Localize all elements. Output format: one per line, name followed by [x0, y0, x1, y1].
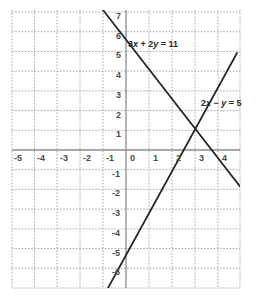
y-tick-label-7: 7: [116, 12, 121, 21]
eq2-equals-value: = 5: [226, 98, 241, 108]
coordinate-plane-graph: -5 -4 -3 -2 -1 0 1 2 3 4 7 6 5 4 3 2 1 -…: [0, 0, 257, 298]
x-tick-label-3: 3: [199, 154, 204, 163]
y-tick-label-1: 1: [116, 130, 121, 139]
y-tick-label--4: -4: [112, 229, 120, 238]
x-tick-label--1: -1: [106, 154, 114, 163]
y-tick-label--1: -1: [112, 170, 120, 179]
x-tick-label--4: -4: [37, 154, 45, 163]
x-tick-label--3: -3: [60, 154, 68, 163]
y-tick-label-6: 6: [116, 32, 121, 41]
equation-label-line-1: 3x + 2y = 11: [128, 40, 178, 49]
y-tick-label--6: -6: [112, 268, 120, 277]
x-tick-label-1: 1: [153, 154, 158, 163]
x-tick-label--2: -2: [83, 154, 91, 163]
eq1-operator: +: [138, 39, 148, 49]
y-tick-label-2: 2: [116, 111, 121, 120]
eq2-operator: −: [211, 98, 221, 108]
equation-label-line-2: 2x − y = 5: [201, 99, 242, 108]
x-tick-label-4: 4: [222, 154, 227, 163]
eq1-equals-value: = 11: [158, 39, 178, 49]
x-tick-label-0: 0: [130, 154, 135, 163]
y-tick-label-3: 3: [116, 91, 121, 100]
y-tick-label-4: 4: [116, 71, 121, 80]
y-tick-label--2: -2: [112, 189, 120, 198]
x-tick-label-2: 2: [176, 154, 181, 163]
y-tick-label--3: -3: [112, 209, 120, 218]
y-tick-label--5: -5: [112, 249, 120, 258]
y-tick-label-5: 5: [116, 51, 121, 60]
x-tick-label--5: -5: [14, 154, 22, 163]
